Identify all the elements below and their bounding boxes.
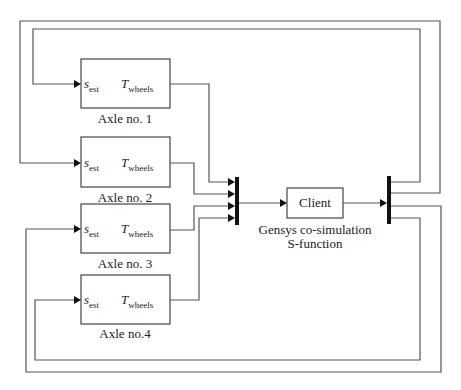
wire-axle2-to-mux [170, 163, 228, 194]
axle-1-label: Axle no. 1 [98, 111, 153, 127]
wire-axle1-to-mux [170, 84, 228, 182]
arrow-icon [74, 225, 81, 233]
arrow-icon [380, 199, 387, 207]
axle-3-input-port: sest [84, 221, 99, 239]
demux-bar[interactable] [387, 176, 391, 224]
arrow-icon [280, 199, 287, 207]
axle-1-input-port: sest [84, 76, 99, 94]
axle-4-label: Axle no.4 [99, 326, 150, 342]
simulink-diagram [0, 0, 461, 390]
arrow-icon [74, 159, 81, 167]
axle-2-input-port: sest [84, 155, 99, 173]
mux-bar[interactable] [235, 177, 239, 225]
arrow-icon [228, 214, 235, 222]
arrow-icon [74, 296, 81, 304]
axle-2-label: Axle no. 2 [98, 190, 153, 206]
arrow-icon [228, 190, 235, 198]
axle-4-input-port: sest [84, 292, 99, 310]
arrow-icon [228, 202, 235, 210]
axle-4-output-port: Twheels [121, 292, 153, 310]
client-caption-line2: S-function [288, 236, 343, 252]
axle-3-output-port: Twheels [121, 221, 153, 239]
axle-3-label: Axle no. 3 [98, 256, 153, 272]
client-label: Client [299, 195, 331, 211]
axle-2-output-port: Twheels [121, 155, 153, 173]
axle-1-output-port: Twheels [121, 76, 153, 94]
arrow-icon [228, 178, 235, 186]
arrow-icon [74, 80, 81, 88]
